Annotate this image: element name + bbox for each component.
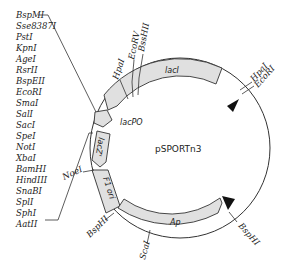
arrowhead-bottom-icon bbox=[222, 196, 235, 210]
mcs-site: HindIII bbox=[15, 175, 48, 185]
lacI-label: lacI bbox=[165, 66, 180, 75]
mcs-site: NotI bbox=[15, 142, 36, 152]
mcs-site: SalI bbox=[16, 109, 34, 119]
arrowhead-right-icon bbox=[227, 99, 239, 112]
mcs-site: BamHI bbox=[15, 164, 47, 174]
lacPO-feature bbox=[94, 110, 112, 127]
mcs-site: RsrII bbox=[15, 65, 38, 75]
mcs-site: SacI bbox=[16, 120, 36, 130]
lacPO-label: lacPO bbox=[120, 118, 143, 127]
ap-label: Ap bbox=[169, 218, 181, 227]
mcs-site: AgeI bbox=[15, 54, 37, 64]
mcs-site: XbaI bbox=[15, 153, 37, 163]
mcs-site: SmaI bbox=[16, 98, 39, 108]
mcs-site: BspEII bbox=[15, 76, 46, 86]
mcs-site: SnaBI bbox=[16, 186, 43, 196]
mcs-site: KpnI bbox=[15, 43, 37, 53]
plasmid-map: lacI lacPO lacZ' F1 ori Ap pSPORTn3 HpaI… bbox=[0, 0, 284, 270]
mcs-site: SpeI bbox=[16, 131, 36, 141]
mcs-site: AatII bbox=[15, 219, 38, 229]
mcs-site: SphI bbox=[16, 208, 37, 218]
mcs-site: PstI bbox=[15, 32, 33, 42]
scaI-label: ScaI bbox=[137, 239, 152, 261]
mcs-site: EcoRI bbox=[15, 87, 42, 97]
bspHI-right-label: BspHI bbox=[236, 220, 262, 248]
plasmid-name: pSPORTn3 bbox=[155, 144, 201, 154]
bspHI-left-label: BspHI bbox=[84, 213, 111, 240]
mcs-site: BspMI bbox=[15, 10, 45, 20]
mcs-site: SplI bbox=[16, 197, 34, 207]
mcs-site: Sse8387I bbox=[16, 21, 57, 31]
mcs-site-list: BspMI Sse8387I PstI KpnI AgeI RsrII BspE… bbox=[15, 10, 57, 229]
bssHII-label: BssHII bbox=[136, 21, 151, 53]
